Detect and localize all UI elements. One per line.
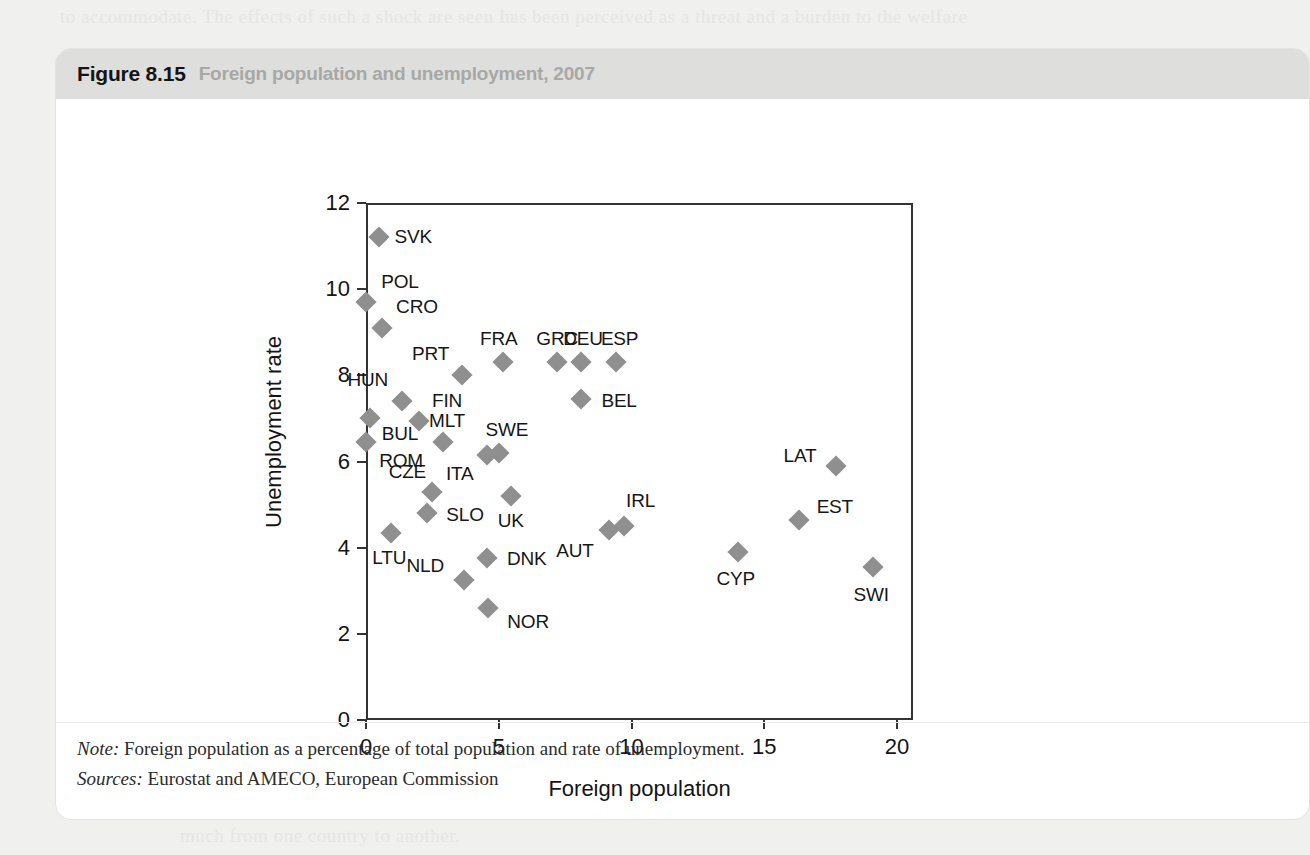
y-axis-tick-label: 6 xyxy=(338,449,366,475)
page-ghost-line-1: to accommodate. The effects of such a sh… xyxy=(60,6,515,28)
x-axis-tick-label: 15 xyxy=(752,734,776,760)
data-point-label: CRO xyxy=(396,296,438,318)
y-axis-title: Unemployment rate xyxy=(261,336,287,528)
data-point-label: CYP xyxy=(717,568,755,590)
data-point-label: EST xyxy=(817,496,853,518)
data-point-label: UK xyxy=(498,510,524,532)
data-point-label: IRL xyxy=(626,490,655,512)
y-axis-tick-label: 4 xyxy=(338,535,366,561)
notes-divider xyxy=(56,722,1309,723)
data-point-label: BEL xyxy=(601,390,636,412)
figure-sources: Sources: Eurostat and AMECO, European Co… xyxy=(77,764,744,793)
data-point-label: AUT xyxy=(556,540,593,562)
data-point-label: BUL xyxy=(382,423,418,445)
y-axis-tick-label: 12 xyxy=(326,190,366,216)
figure-caption: Foreign population and unemployment, 200… xyxy=(199,63,595,85)
sources-lead: Sources: xyxy=(77,768,143,789)
data-point-label: DEU xyxy=(563,328,603,350)
data-point-label: ESP xyxy=(601,328,638,350)
data-point-label: SLO xyxy=(446,504,483,526)
y-axis-tick-label: 0 xyxy=(338,707,366,733)
figure-number: Figure 8.15 xyxy=(77,62,186,86)
data-point-label: FIN xyxy=(432,390,462,412)
data-point-label: SWE xyxy=(485,419,528,441)
figure-notes: Note: Foreign population as a percentage… xyxy=(77,734,744,793)
page-ghost-line-5: much from one country to another. xyxy=(180,825,460,847)
data-point-label: SVK xyxy=(395,226,432,248)
note-lead: Note: xyxy=(77,738,119,759)
data-point-label: POL xyxy=(381,271,418,293)
page-ghost-line-2: has been perceived as a threat and a bur… xyxy=(500,6,967,28)
data-point-label: SWI xyxy=(854,584,889,606)
figure-header: Figure 8.15 Foreign population and unemp… xyxy=(56,49,1309,99)
data-point-label: FRA xyxy=(480,328,517,350)
data-point-label: HUN xyxy=(348,369,389,391)
data-point-label: NLD xyxy=(407,555,444,577)
data-point-label: DNK xyxy=(507,548,547,570)
data-point-label: MLT xyxy=(429,410,465,432)
sources-text: Eurostat and AMECO, European Commission xyxy=(143,768,499,789)
data-point-label: LAT xyxy=(784,445,817,467)
x-axis-tick-label: 20 xyxy=(885,734,909,760)
figure-card: Figure 8.15 Foreign population and unemp… xyxy=(55,48,1310,820)
scatter-chart: 02468101205101520Foreign populationUnemp… xyxy=(56,99,1196,759)
data-point-label: PRT xyxy=(412,343,449,365)
note-text: Foreign population as a percentage of to… xyxy=(119,738,744,759)
figure-note: Note: Foreign population as a percentage… xyxy=(77,734,744,763)
data-point-label: LTU xyxy=(372,547,406,569)
data-point-label: CZE xyxy=(389,461,426,483)
data-point-label: NOR xyxy=(507,611,549,633)
y-axis-tick-label: 2 xyxy=(338,621,366,647)
data-point-label: ITA xyxy=(446,463,474,485)
